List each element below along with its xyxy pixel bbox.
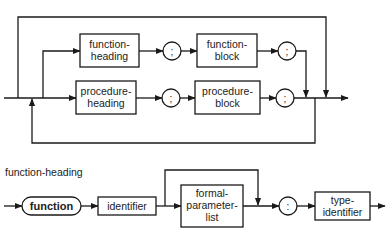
function-heading-syntax-diagram: function-heading function identifier for…: [4, 166, 385, 227]
procedure-block-label-1: procedure-: [202, 85, 253, 97]
type-identifier-label-2: identifier: [323, 206, 363, 218]
block-syntax-diagram: function- heading ; function- block ; pr…: [4, 17, 348, 143]
semicolon-symbol: ;: [170, 93, 173, 104]
branch-function: [43, 51, 80, 98]
semicolon-symbol: ;: [284, 93, 287, 104]
diagram-title: function-heading: [5, 166, 83, 178]
semicolon-symbol: ;: [171, 46, 174, 57]
function-block-label-2: block: [215, 50, 240, 62]
identifier-label: identifier: [107, 200, 147, 212]
procedure-heading-label-1: procedure-: [81, 85, 132, 97]
colon-symbol: :: [287, 201, 290, 212]
function-heading-label-1: function-: [89, 38, 130, 50]
formal-parameter-list-label-3: list: [206, 211, 219, 223]
function-keyword: function: [30, 200, 74, 212]
syntax-diagrams: function- heading ; function- block ; pr…: [0, 0, 387, 233]
function-heading-label-2: heading: [91, 50, 129, 62]
procedure-block-label-2: block: [215, 97, 240, 109]
formal-parameter-list-label-2: parameter-: [186, 199, 238, 211]
procedure-heading-label-2: heading: [87, 97, 125, 109]
semicolon-symbol: ;: [286, 46, 289, 57]
function-block-label-1: function-: [207, 38, 248, 50]
formal-parameter-list-label-1: formal-: [196, 187, 229, 199]
type-identifier-label-1: type-: [331, 194, 355, 206]
